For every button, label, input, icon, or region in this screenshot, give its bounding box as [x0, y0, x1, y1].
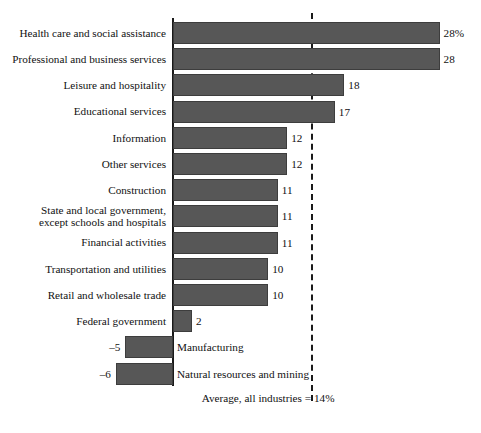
average-annotation-text: Average, all industries = — [202, 392, 311, 404]
bar-value-label: 11 — [282, 203, 293, 229]
bar-row: Federal government2 — [0, 308, 481, 334]
category-label: Natural resources and mining — [177, 361, 309, 387]
bar-row: Leisure and hospitality18 — [0, 72, 481, 98]
bar-value-label: 10 — [272, 282, 283, 308]
category-label: Educational services — [74, 99, 166, 125]
bar — [173, 205, 278, 227]
bar — [173, 284, 268, 306]
bar-value-label: 10 — [272, 256, 283, 282]
category-label-text: Information — [113, 132, 166, 144]
bar — [173, 153, 287, 175]
bar-value-label: 28% — [444, 20, 465, 46]
bar — [173, 258, 268, 280]
average-annotation-value: 14% — [314, 392, 335, 404]
bar-row: Construction11 — [0, 177, 481, 203]
bar — [125, 336, 173, 358]
bar-value-label: 11 — [282, 177, 293, 203]
bar-value-label: 11 — [282, 230, 293, 256]
bar-chart: Health care and social assistance28%Prof… — [0, 0, 481, 433]
category-label-text: Professional and business services — [12, 53, 166, 65]
category-label-text: Transportation and utilities — [45, 263, 166, 275]
bar-row: Other services12 — [0, 151, 481, 177]
category-label-text-line2: except schools and hospitals — [39, 216, 166, 228]
category-label: Manufacturing — [177, 334, 243, 360]
bar — [173, 310, 192, 332]
bar-row: State and local government,except school… — [0, 203, 481, 229]
bar — [173, 101, 335, 123]
category-label-text: State and local government, — [41, 204, 166, 216]
bar — [173, 22, 440, 44]
bar — [173, 74, 344, 96]
bar-value-label: 2 — [196, 308, 202, 334]
bar-value-label: 12 — [291, 125, 302, 151]
bar-row: Information12 — [0, 125, 481, 151]
category-label-text: Health care and social assistance — [19, 27, 166, 39]
bar-row: Financial activities11 — [0, 230, 481, 256]
bar — [173, 48, 440, 70]
category-label-text: Educational services — [74, 105, 166, 117]
bar — [116, 363, 173, 385]
bar-value-label: –6 — [76, 361, 111, 387]
category-label: Construction — [108, 177, 166, 203]
category-label-text: Federal government — [76, 315, 166, 327]
bar-value-label: –5 — [85, 334, 120, 360]
category-label: Leisure and hospitality — [63, 72, 166, 98]
bar — [173, 179, 278, 201]
bar-row: Professional and business services28 — [0, 46, 481, 72]
bar-row: Natural resources and mining–6 — [0, 361, 481, 387]
plot-area: Health care and social assistance28%Prof… — [0, 0, 481, 433]
category-label-text: Leisure and hospitality — [63, 79, 166, 91]
bar-row: Retail and wholesale trade10 — [0, 282, 481, 308]
category-label-text: Construction — [108, 184, 166, 196]
category-label: Financial activities — [81, 230, 166, 256]
bar-row: Manufacturing–5 — [0, 334, 481, 360]
category-label: State and local government,except school… — [39, 203, 166, 229]
category-label: Transportation and utilities — [45, 256, 166, 282]
category-label: Federal government — [76, 308, 166, 334]
bar-value-label: 17 — [339, 99, 350, 125]
bar — [173, 232, 278, 254]
category-label: Other services — [102, 151, 166, 177]
category-label: Retail and wholesale trade — [48, 282, 166, 308]
category-label: Health care and social assistance — [19, 20, 166, 46]
bar-row: Health care and social assistance28% — [0, 20, 481, 46]
category-label-text: Natural resources and mining — [177, 368, 309, 380]
bar-row: Transportation and utilities10 — [0, 256, 481, 282]
bar — [173, 127, 287, 149]
bar-row: Educational services17 — [0, 99, 481, 125]
category-label: Professional and business services — [12, 46, 166, 72]
category-label-text: Manufacturing — [177, 341, 243, 353]
category-label-text: Retail and wholesale trade — [48, 289, 166, 301]
category-label-text: Financial activities — [81, 236, 166, 248]
category-label-text: Other services — [102, 158, 166, 170]
bar-value-label: 28 — [444, 46, 455, 72]
bar-value-label: 12 — [291, 151, 302, 177]
category-label: Information — [113, 125, 166, 151]
bar-value-label: 18 — [348, 72, 359, 98]
